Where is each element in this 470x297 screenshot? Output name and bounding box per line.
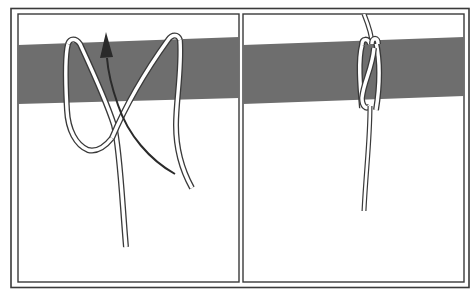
bar: [18, 37, 239, 104]
panel-step-2: [243, 14, 464, 282]
panel-step-1: [18, 14, 239, 282]
bar: [243, 37, 464, 104]
knot-diagram: [0, 0, 470, 297]
